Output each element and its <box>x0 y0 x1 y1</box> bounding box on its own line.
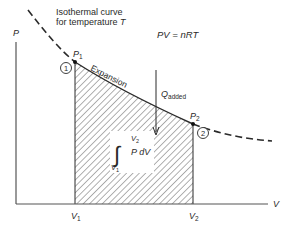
isothermal-pv-diagram: Isothermal curve for temperature T PV = … <box>0 0 291 229</box>
heat-label: Qadded <box>161 89 186 100</box>
point-p2-dot <box>191 122 195 126</box>
p1-label: P1 <box>73 49 83 60</box>
integrand: P dV <box>131 147 151 157</box>
v-axis-label: V <box>273 199 280 209</box>
v1-label: V1 <box>71 211 81 222</box>
point-p1-dot <box>73 60 77 64</box>
equation: PV = nRT <box>157 29 199 40</box>
p-axis-label: P <box>13 28 19 38</box>
svg-text:1: 1 <box>64 64 68 73</box>
state-1-marker: 1 <box>61 63 72 74</box>
p2-label: P2 <box>190 111 200 122</box>
title-line1: Isothermal curve <box>56 7 123 17</box>
svg-text:2: 2 <box>201 129 205 138</box>
state-2-marker: 2 <box>198 128 209 139</box>
title-line2: for temperature T <box>56 17 127 27</box>
v2-label: V2 <box>189 211 199 222</box>
